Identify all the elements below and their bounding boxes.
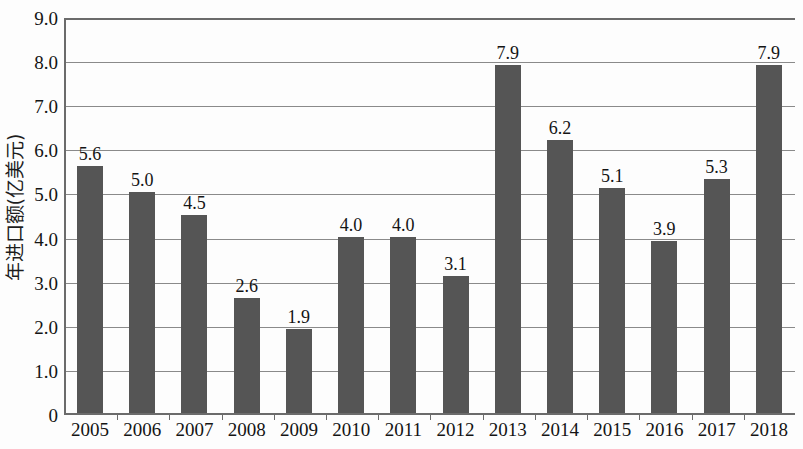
bar-slot: 2.6 xyxy=(223,18,275,413)
x-axis-tick-label: 2014 xyxy=(541,418,579,443)
x-axis-tick-label: 2011 xyxy=(385,418,422,443)
bar[interactable] xyxy=(547,140,573,413)
y-axis-tick-label: 1.0 xyxy=(34,361,58,380)
bar[interactable] xyxy=(390,237,416,413)
bar-slot: 7.9 xyxy=(484,18,536,413)
bar[interactable] xyxy=(443,276,469,413)
y-axis-tick-label: 2.0 xyxy=(34,317,58,336)
bar-value-label: 7.9 xyxy=(758,44,781,62)
x-axis-tick-label: 2010 xyxy=(332,418,370,443)
bar-value-label: 1.9 xyxy=(288,308,311,326)
bar-value-label: 4.0 xyxy=(392,216,415,234)
bars-layer: 5.65.04.52.61.94.04.03.17.96.25.13.95.37… xyxy=(66,18,795,413)
bar[interactable] xyxy=(286,329,312,413)
bar-slot: 3.1 xyxy=(432,18,484,413)
y-axis-tick-label: 7.0 xyxy=(34,97,58,116)
bar[interactable] xyxy=(129,192,155,413)
bar[interactable] xyxy=(181,215,207,414)
x-axis-tick-label: 2017 xyxy=(698,418,736,443)
x-axis-tick-label: 2018 xyxy=(750,418,788,443)
bar-slot: 1.9 xyxy=(275,18,327,413)
bar-value-label: 4.0 xyxy=(340,216,363,234)
bar-slot: 5.6 xyxy=(66,18,118,413)
bar-value-label: 5.0 xyxy=(131,171,154,189)
bar[interactable] xyxy=(77,166,103,413)
bar[interactable] xyxy=(234,298,260,413)
bar[interactable] xyxy=(704,179,730,413)
y-axis-tick-label: 0 xyxy=(49,406,59,425)
bar-slot: 7.9 xyxy=(745,18,797,413)
bar-slot: 4.5 xyxy=(170,18,222,413)
bar-value-label: 7.9 xyxy=(496,44,519,62)
x-axis-tick-labels: 2005200620072008200920102011201220132014… xyxy=(64,418,795,449)
bar-value-label: 3.1 xyxy=(444,255,467,273)
bar[interactable] xyxy=(599,188,625,413)
bar-value-label: 3.9 xyxy=(653,220,676,238)
x-axis-tick-label: 2013 xyxy=(489,418,527,443)
bar-value-label: 5.3 xyxy=(705,158,728,176)
bar-value-label: 4.5 xyxy=(183,194,206,212)
y-axis-tick-label: 6.0 xyxy=(34,141,58,160)
plot-area: 5.65.04.52.61.94.04.03.17.96.25.13.95.37… xyxy=(64,18,795,415)
bar-value-label: 5.1 xyxy=(601,167,624,185)
bar-slot: 4.0 xyxy=(327,18,379,413)
bar-value-label: 2.6 xyxy=(235,277,258,295)
y-axis-tick-label: 8.0 xyxy=(34,53,58,72)
y-axis-tick-label: 3.0 xyxy=(34,273,58,292)
x-axis-tick-label: 2006 xyxy=(123,418,161,443)
bar-value-label: 5.6 xyxy=(79,145,102,163)
y-axis-tick-label: 4.0 xyxy=(34,229,58,248)
y-axis-tick-label: 9.0 xyxy=(34,9,58,28)
x-axis-tick-label: 2007 xyxy=(176,418,214,443)
bar-slot: 5.0 xyxy=(118,18,170,413)
bar-slot: 4.0 xyxy=(379,18,431,413)
bar-slot: 5.3 xyxy=(693,18,745,413)
x-axis-tick-label: 2008 xyxy=(228,418,266,443)
x-axis-tick-label: 2005 xyxy=(71,418,109,443)
bar-value-label: 6.2 xyxy=(549,119,572,137)
x-axis-tick-label: 2015 xyxy=(593,418,631,443)
bar[interactable] xyxy=(651,241,677,413)
y-axis-tick-label: 5.0 xyxy=(34,185,58,204)
bar[interactable] xyxy=(338,237,364,413)
bar[interactable] xyxy=(495,65,521,413)
x-axis-tick-label: 2012 xyxy=(437,418,475,443)
x-axis-tick-label: 2016 xyxy=(645,418,683,443)
y-axis-tick-labels: 01.02.03.04.05.06.07.08.09.0 xyxy=(0,0,62,449)
bar-slot: 6.2 xyxy=(536,18,588,413)
bar[interactable] xyxy=(756,65,782,413)
bar-slot: 5.1 xyxy=(588,18,640,413)
bar-chart: 年进口额(亿美元) 01.02.03.04.05.06.07.08.09.0 5… xyxy=(0,0,803,449)
bar-slot: 3.9 xyxy=(640,18,692,413)
x-axis-tick-label: 2009 xyxy=(280,418,318,443)
